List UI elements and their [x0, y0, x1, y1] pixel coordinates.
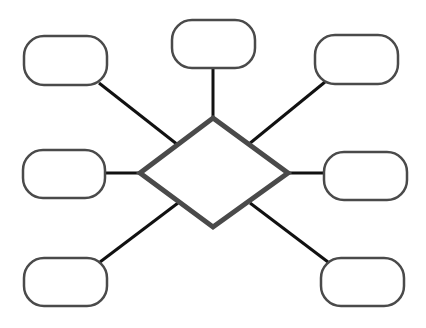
node-top-center[interactable] [172, 20, 255, 68]
connector-top-left [99, 83, 178, 145]
connector-bottom-right [250, 203, 328, 262]
spoke-diagram [0, 0, 426, 328]
node-box[interactable] [172, 20, 255, 68]
node-box[interactable] [23, 150, 105, 198]
node-middle-left[interactable] [23, 150, 105, 198]
node-box[interactable] [24, 258, 107, 306]
node-bottom-right[interactable] [321, 258, 404, 306]
connector-bottom-left [100, 203, 178, 262]
node-box[interactable] [24, 36, 107, 85]
node-middle-right[interactable] [324, 152, 407, 200]
node-bottom-left[interactable] [24, 258, 107, 306]
node-box[interactable] [321, 258, 404, 306]
node-top-left[interactable] [24, 36, 107, 85]
node-box[interactable] [324, 152, 407, 200]
connector-top-right [249, 82, 325, 144]
node-top-right[interactable] [315, 35, 398, 84]
node-box[interactable] [315, 35, 398, 84]
